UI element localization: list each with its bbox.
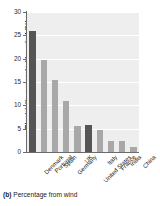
- figure-caption: (b) Percentage from wind: [3, 191, 77, 198]
- bar: [41, 60, 47, 152]
- x-axis-category-label: Spain: [63, 154, 78, 169]
- bar-series: [27, 12, 139, 152]
- x-axis-category-label: China: [141, 154, 156, 169]
- y-axis-tick-label: 15: [3, 78, 21, 85]
- y-axis-tick-label: 20: [3, 55, 21, 62]
- y-axis-tick-label: 25: [3, 31, 21, 38]
- caption-marker: (b): [3, 191, 11, 198]
- bar: [63, 101, 69, 152]
- y-axis-tick-label: 10: [3, 101, 21, 108]
- caption-text: Percentage from wind: [13, 191, 77, 198]
- bar: [119, 141, 125, 152]
- y-axis-tick-label: 0: [3, 148, 21, 155]
- figure-panel: Electricity generated by wind (%) 051015…: [0, 0, 160, 206]
- y-axis-tick-label: 30: [3, 8, 21, 15]
- x-axis-category-labels: DenmarkPortugalSpainGermanyUKUnited Stat…: [27, 152, 139, 186]
- bar: [97, 130, 103, 152]
- bar: [52, 80, 58, 152]
- y-axis-tick-label: 5: [3, 125, 21, 132]
- bar: [85, 125, 91, 152]
- bar: [29, 31, 35, 152]
- bar: [74, 126, 80, 152]
- bar: [108, 141, 114, 152]
